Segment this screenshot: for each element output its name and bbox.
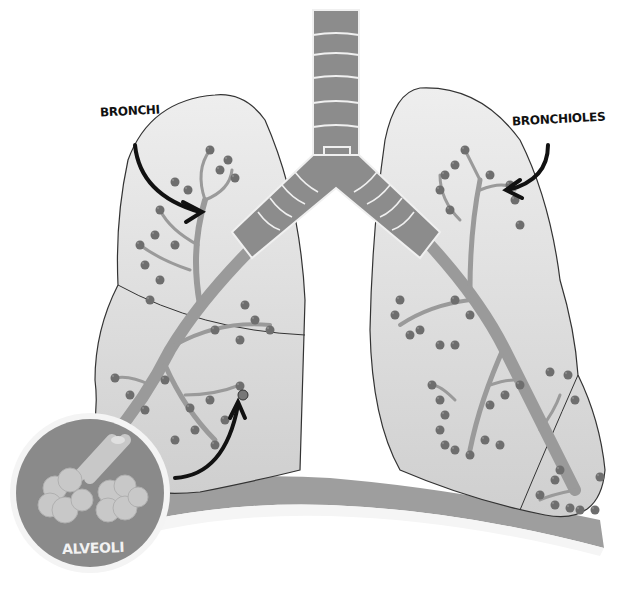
alveoli-label: ALVEOLI	[62, 539, 125, 557]
lungs-diagram	[0, 0, 618, 596]
trachea	[313, 10, 359, 155]
right-lung	[370, 88, 605, 517]
highlighted-alveolus	[238, 390, 248, 400]
